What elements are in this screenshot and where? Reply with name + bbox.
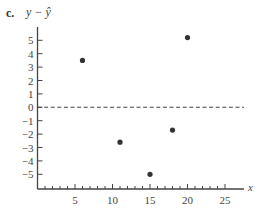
x-tick-label: 20: [182, 194, 194, 206]
x-tick-label: 15: [145, 194, 157, 206]
y-tick-label: 1: [28, 88, 34, 100]
x-tick-label: 10: [107, 194, 119, 206]
x-tick-label: 25: [220, 194, 232, 206]
data-point: [185, 35, 190, 40]
y-tick-label: 4: [28, 48, 34, 60]
y-tick-label: 0: [28, 101, 34, 113]
y-tick-label: 3: [28, 61, 34, 73]
y-tick-label: 5: [28, 34, 34, 46]
x-axis-label: x: [247, 181, 253, 193]
data-point: [117, 140, 122, 145]
y-tick-label: 2: [28, 75, 34, 87]
data-point: [170, 127, 175, 132]
axes: 543210−1−2−3−4−5510152025x: [22, 27, 253, 206]
y-tick-label: −5: [22, 168, 34, 180]
y-tick-label: −2: [22, 128, 34, 140]
data-points: [80, 35, 190, 177]
y-tick-label: −4: [22, 155, 34, 167]
data-point: [80, 58, 85, 63]
residual-scatter-plot: 543210−1−2−3−4−5510152025x: [0, 0, 260, 213]
data-point: [147, 172, 152, 177]
x-tick-label: 5: [72, 194, 78, 206]
y-tick-label: −3: [22, 142, 34, 154]
y-tick-label: −1: [22, 115, 34, 127]
